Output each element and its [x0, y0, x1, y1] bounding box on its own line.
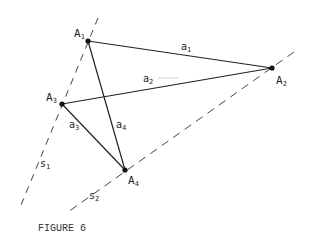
point-a4: [122, 167, 127, 172]
point-a1: [85, 38, 90, 43]
dashed-line-s2: [68, 52, 294, 212]
point-a3: [59, 101, 64, 106]
label-segment-a2: a2: [143, 73, 153, 86]
segment-a1: [88, 41, 272, 68]
label-line-s2: s2: [89, 190, 99, 203]
label-point-a4: A4: [128, 174, 139, 188]
figure-6-diagram: A1 A2 A3 A4 a1 a2 a3 a4 s1 s2 FIGURE 6: [0, 0, 310, 245]
label-point-a2: A2: [276, 74, 287, 88]
label-segment-a4: a4: [116, 119, 126, 132]
point-a2: [269, 65, 274, 70]
label-point-a1: A1: [74, 27, 85, 41]
dashed-line-s1: [19, 18, 98, 210]
segment-a2: [62, 68, 272, 104]
figure-caption: FIGURE 6: [38, 223, 86, 234]
label-point-a3: A3: [46, 91, 57, 105]
label-line-s1: s1: [40, 158, 50, 171]
label-segment-a1: a1: [181, 41, 191, 54]
